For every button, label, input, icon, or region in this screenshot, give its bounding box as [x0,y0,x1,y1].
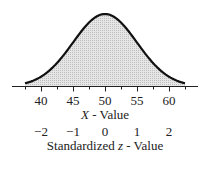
x-tick-label: 40 [35,93,48,109]
x-tick-label: 55 [131,93,144,109]
x-tick-label: 45 [67,93,80,109]
x-axis-ticks [26,87,186,92]
z-tick-label: 2 [166,124,173,140]
x-axis-title: X - Value [81,107,129,123]
shaded-area [25,14,185,87]
z-axis-title: Standardized z - Value [47,138,163,154]
x-tick-label: 60 [163,93,176,109]
